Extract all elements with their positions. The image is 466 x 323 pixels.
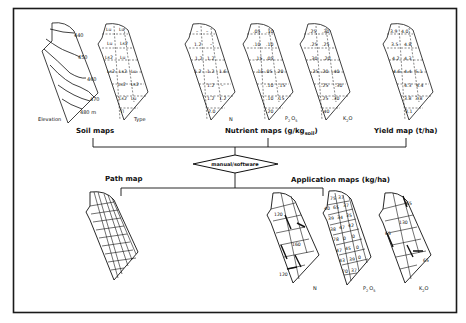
svg-text:70: 70: [342, 269, 348, 274]
application-p2o5-caption: P2O5: [363, 285, 375, 293]
svg-text:4.2: 4.2: [392, 56, 399, 61]
svg-text:78: 78: [333, 237, 339, 242]
svg-text:.25: .25: [310, 42, 317, 47]
svg-text:.15: .15: [255, 56, 262, 61]
svg-text:.25: .25: [321, 96, 328, 101]
svg-text:4.3: 4.3: [404, 56, 411, 61]
svg-text:.25: .25: [309, 29, 316, 34]
svg-text:3.8: 3.8: [404, 96, 411, 101]
svg-text:.15: .15: [256, 69, 263, 74]
application-n-caption: N: [313, 285, 317, 291]
application-n-value-2: 160: [292, 242, 301, 247]
application-n-value-3: 120: [279, 272, 288, 277]
nutrient-p2o5-values: .05 .10 .10 .10 .15 .05 .15 .05 .20 .10 …: [253, 29, 285, 114]
application-map-k2o: [379, 193, 431, 283]
svg-text:35: 35: [346, 213, 352, 218]
decision-label: manual/software: [211, 161, 259, 167]
svg-text:.05: .05: [253, 29, 260, 34]
nutrient-k2o-caption: K2O: [343, 115, 353, 123]
svg-text:4.3: 4.3: [404, 83, 411, 88]
svg-text:47: 47: [339, 225, 345, 230]
svg-text:42: 42: [348, 223, 354, 228]
svg-text:.10: .10: [266, 83, 273, 88]
svg-text:1.6: 1.6: [219, 69, 226, 74]
svg-text:.25: .25: [311, 69, 318, 74]
svg-text:1.2: 1.2: [207, 96, 214, 101]
svg-text:–: –: [196, 29, 199, 34]
path-map: [86, 192, 138, 280]
elevation-contour-450: 450: [78, 54, 88, 60]
svg-text:3.5: 3.5: [391, 42, 398, 47]
path-map-title: Path map: [105, 175, 142, 183]
application-maps-title: Application maps (kg/ha): [291, 176, 390, 184]
svg-text:37: 37: [338, 195, 344, 200]
svg-text:4.0: 4.0: [401, 29, 408, 34]
svg-text:Lu: Lu: [106, 27, 111, 32]
svg-text:43: 43: [339, 258, 345, 263]
application-k2o-value-1: 65: [406, 201, 412, 206]
application-k2o-caption: K2O: [419, 285, 429, 293]
svg-text:1.2: 1.2: [219, 96, 226, 101]
nutrient-k2o-values: .25 .30 .25 .25 .30 .20 .25 .20 .40 .25 …: [309, 29, 342, 114]
application-n-value-1: 120: [274, 212, 283, 217]
elevation-contour-440: 440: [74, 32, 84, 38]
svg-text:Ls2: Ls2: [119, 96, 127, 101]
nutrient-n-values: – – 1.2 – 1.2 1.2 1.2 1.2 1.6 1.2 – 1.2 …: [194, 29, 226, 114]
svg-text:3.8: 3.8: [415, 96, 422, 101]
svg-text:.10: .10: [266, 29, 273, 34]
svg-text:.15: .15: [278, 83, 285, 88]
svg-text:40: 40: [324, 206, 330, 211]
application-k2o-value-2: 130: [399, 220, 408, 225]
svg-text:.15: .15: [277, 96, 284, 101]
svg-text:5.1: 5.1: [415, 69, 422, 74]
svg-text:34: 34: [337, 215, 343, 220]
svg-text:1.2: 1.2: [194, 69, 201, 74]
svg-text:2.0: 2.0: [208, 109, 215, 114]
svg-text:Lu: Lu: [120, 55, 125, 60]
elevation-caption: Elevation: [38, 116, 61, 122]
nutrient-maps-group: – – 1.2 – 1.2 1.2 1.2 1.2 1.6 1.2 – 1.2 …: [185, 24, 353, 136]
svg-text:0: 0: [352, 234, 355, 239]
svg-text:0: 0: [343, 236, 346, 241]
svg-text:Tl: Tl: [119, 109, 124, 114]
svg-text:37: 37: [343, 203, 349, 208]
svg-text:1.2: 1.2: [195, 56, 202, 61]
svg-text:45: 45: [345, 246, 351, 251]
svg-text:.05: .05: [266, 56, 273, 61]
soil-maps-group: 440 450 460 470 480 m Elevation Lu Lu Lu…: [38, 23, 148, 135]
svg-text:1.2: 1.2: [207, 83, 214, 88]
svg-text:.20: .20: [321, 69, 328, 74]
decision-node: manual/software: [193, 155, 278, 173]
svg-text:.20: .20: [276, 69, 283, 74]
svg-text:Lu: Lu: [131, 96, 136, 101]
elevation-contour-480: 480 m: [80, 109, 96, 115]
precision-farming-diagram: 440 450 460 470 480 m Elevation Lu Lu Lu…: [0, 0, 466, 323]
svg-text:1.2: 1.2: [207, 56, 214, 61]
svg-text:3.1: 3.1: [405, 109, 412, 114]
svg-text:Ls2: Ls2: [131, 82, 139, 87]
svg-text:–: –: [206, 29, 209, 34]
svg-text:.30: .30: [310, 56, 317, 61]
svg-text:4.4: 4.4: [404, 69, 411, 74]
application-maps-group: Application maps (kg/ha) 120 160 120 N 7…: [267, 176, 431, 293]
svg-text:0: 0: [358, 255, 361, 260]
svg-text:.30: .30: [332, 96, 339, 101]
svg-text:.25: .25: [321, 83, 328, 88]
svg-text:Ls2: Ls2: [119, 69, 127, 74]
svg-text:75: 75: [330, 196, 336, 201]
svg-text:Ls2: Ls2: [107, 69, 115, 74]
yield-map-group: 3.9 4.0 3.5 4.8 4.2 4.3 4.6 4.4 5.1 4.3 …: [373, 24, 438, 135]
svg-text:.10: .10: [253, 42, 260, 47]
soil-type-caption: Type: [133, 116, 145, 123]
svg-text:1.2: 1.2: [207, 69, 214, 74]
svg-text:.10: .10: [266, 96, 273, 101]
svg-text:39: 39: [349, 257, 355, 262]
svg-text:Lu: Lu: [131, 69, 136, 74]
yield-map-title: Yield map (t/ha): [373, 127, 438, 135]
application-k2o-value-3: 65: [385, 231, 391, 236]
svg-text:.25: .25: [322, 42, 329, 47]
svg-text:Ls2: Ls2: [105, 55, 113, 60]
elevation-map: [42, 23, 98, 123]
application-map-n: [267, 193, 319, 283]
svg-text:.40: .40: [332, 69, 339, 74]
